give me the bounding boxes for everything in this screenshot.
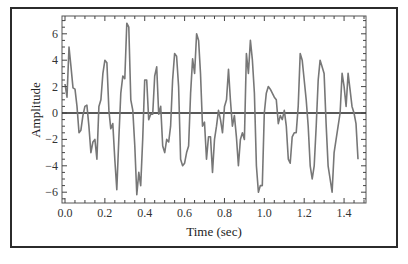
x-tick-label: 1.2 bbox=[297, 206, 312, 220]
y-tick-label: −2 bbox=[45, 132, 58, 146]
y-tick-label: −6 bbox=[45, 185, 58, 199]
x-axis-title: Time (sec) bbox=[186, 224, 242, 239]
x-tick-label: 0.6 bbox=[177, 206, 192, 220]
x-tick-label: 0.4 bbox=[137, 206, 152, 220]
x-tick-label: 1.0 bbox=[257, 206, 272, 220]
y-tick-label: 0 bbox=[52, 106, 58, 120]
y-tick-label: 4 bbox=[52, 53, 58, 67]
line-chart: 0.00.20.40.60.81.01.21.4 6420−2−4−6 Time… bbox=[0, 0, 408, 264]
x-tick-label: 0.0 bbox=[58, 206, 73, 220]
y-axis-title: Amplitude bbox=[28, 82, 43, 138]
y-tick-label: 2 bbox=[52, 80, 58, 94]
plot-area bbox=[62, 16, 366, 203]
y-tick-label: −4 bbox=[45, 159, 58, 173]
x-tick-label: 0.8 bbox=[217, 206, 232, 220]
x-tick-label: 1.4 bbox=[337, 206, 352, 220]
x-tick-label: 0.2 bbox=[97, 206, 112, 220]
plot-frame bbox=[62, 16, 366, 203]
y-tick-label: 6 bbox=[52, 27, 58, 41]
